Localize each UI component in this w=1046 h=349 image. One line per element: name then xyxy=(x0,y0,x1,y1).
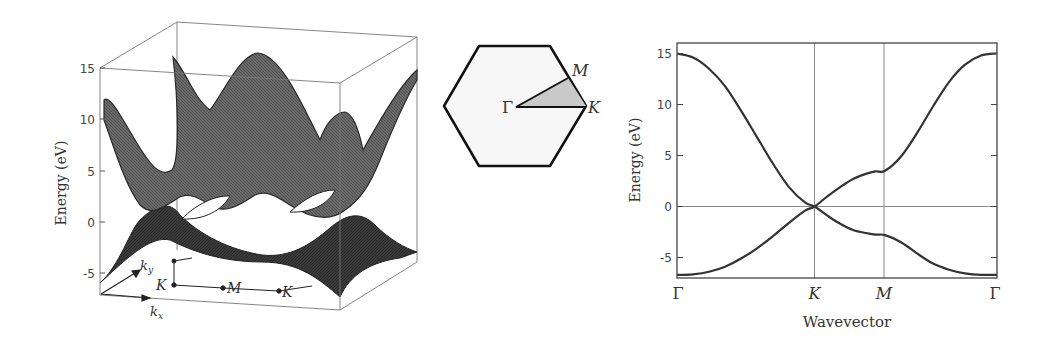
kx-label: kx xyxy=(150,304,163,321)
path-label-m: M xyxy=(226,280,242,296)
z-tick-0: 0 xyxy=(87,216,95,230)
surface-3d-plot: 15 10 5 0 -5 Energy (eV) ky kx K M K xyxy=(0,0,440,349)
x-axis-tick-labels: Γ K M Γ xyxy=(672,284,1000,303)
lower-band-surface xyxy=(100,206,417,297)
k-label: K xyxy=(587,98,601,117)
x-axis-label: Wavevector xyxy=(803,313,892,331)
axes-frame xyxy=(677,43,997,278)
path-label-k1: K xyxy=(155,277,168,293)
z-tick-15: 15 xyxy=(80,62,95,76)
z-axis-label: Energy (eV) xyxy=(53,141,69,226)
m-label: M xyxy=(571,61,589,80)
y-tick-15: 15 xyxy=(657,47,672,61)
x-tick-gamma-end: Γ xyxy=(989,284,1000,303)
y-axis-label: Energy (eV) xyxy=(627,118,643,203)
path-label-k2: K xyxy=(281,284,294,300)
z-tick-neg5: -5 xyxy=(83,267,95,281)
x-tick-m: M xyxy=(875,284,893,303)
y-axis-tick-labels: 15 10 5 0 -5 xyxy=(657,47,672,265)
z-tick-10: 10 xyxy=(80,113,95,127)
z-axis-tick-labels: 15 10 5 0 -5 xyxy=(80,62,95,281)
z-tick-5: 5 xyxy=(87,165,95,179)
y-axis-ticks xyxy=(677,54,997,258)
band-structure-plot: 15 10 5 0 -5 Γ K M Γ Wavevector Energy (… xyxy=(600,0,1046,349)
x-tick-gamma-start: Γ xyxy=(672,284,683,303)
y-tick-10: 10 xyxy=(657,98,672,112)
x-tick-k: K xyxy=(808,284,822,303)
y-tick-5: 5 xyxy=(664,149,672,163)
gamma-label: Γ xyxy=(502,98,513,117)
band-surface-3d-panel: 15 10 5 0 -5 Energy (eV) ky kx K M K xyxy=(0,0,440,349)
y-tick-neg5: -5 xyxy=(660,251,672,265)
upper-band-line xyxy=(677,54,997,275)
y-tick-0: 0 xyxy=(664,200,672,214)
z-axis-ticks xyxy=(100,68,105,273)
band-structure-panel: 15 10 5 0 -5 Γ K M Γ Wavevector Energy (… xyxy=(600,0,1046,349)
ky-label: ky xyxy=(140,258,154,275)
